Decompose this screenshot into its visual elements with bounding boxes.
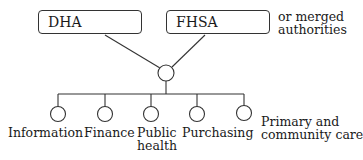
child-label-purchasing: Purchasing [182,126,253,139]
dha-label: DHA [48,14,82,30]
top-note-line2: authorities [278,23,347,36]
dha-box: DHA [38,10,142,34]
fhsa-connector [172,35,205,67]
fhsa-label: FHSA [176,14,218,30]
child-node-public-health [144,107,159,122]
child-node-purchasing [190,107,205,122]
child-label-finance: Finance [84,126,135,139]
child-label-information: Information [8,126,83,139]
child-node-primary-care [237,106,252,121]
child-label-public-health: Public health [137,126,169,152]
hub-node [158,65,174,81]
child-label-primary-care: Primary and community care [261,115,363,141]
fhsa-box: FHSA [166,10,270,34]
child-node-finance [98,107,113,122]
top-note: or merged authorities [278,10,347,36]
child-node-information [51,107,66,122]
dha-connector [105,35,160,68]
